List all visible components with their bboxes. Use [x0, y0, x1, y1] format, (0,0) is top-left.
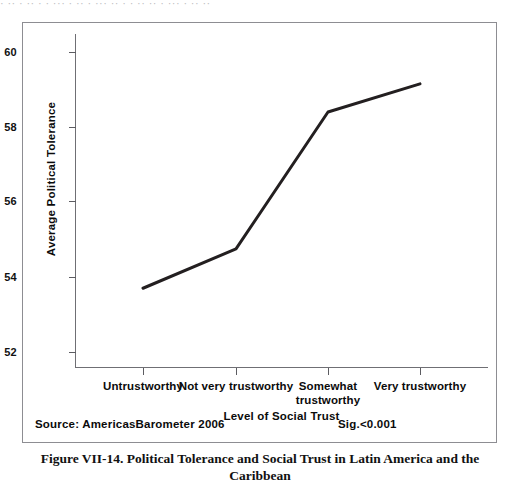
figure-caption: Figure VII-14. Political Tolerance and S… — [40, 450, 480, 484]
figure-footer: Source: AmericasBarometer 2006 Sig.<0.00… — [23, 412, 496, 444]
y-axis-tick-label: 54 — [0, 271, 17, 283]
figure-frame: 60 58 56 54 52 Untrustworthy Not very tr… — [22, 22, 497, 443]
y-axis-tick-label: 60 — [0, 46, 17, 58]
series-polyline — [143, 84, 420, 288]
y-axis-tick-label: 56 — [0, 195, 17, 207]
plot-area: 60 58 56 54 52 Untrustworthy Not very tr… — [23, 23, 496, 353]
source-note: Source: AmericasBarometer 2006 — [35, 418, 225, 430]
series-line-chart — [23, 23, 496, 444]
significance-note: Sig.<0.001 — [338, 418, 397, 430]
y-axis-tick-label: 52 — [0, 346, 17, 358]
scan-bleed-text: · ·· · ·· · · ··· · ·· · ··· ·· · · ·· ·… — [0, 0, 519, 10]
y-axis-tick-label: 58 — [0, 121, 17, 133]
